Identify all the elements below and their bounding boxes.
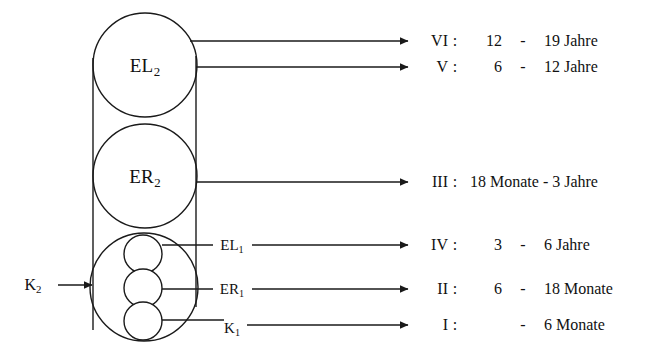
stage-age-to: 3 Jahre [552,173,598,191]
stage-roman: VI [418,32,448,50]
stage-colon: : [448,58,462,76]
stage-colon: : [448,280,462,298]
inline-label-el1: EL1 [220,237,243,254]
stage-dash: - [539,173,552,191]
stage-colon: : [448,173,462,191]
stage-age-to: 19 Jahre [544,32,598,50]
circle-el1 [124,235,162,273]
stage-roman: V [418,58,448,76]
input-label-k2: K2 [25,276,42,294]
stage-age-from: 18 Monate [462,173,539,191]
circle-label-el2: EL2 [130,55,161,77]
circle-k1 [124,302,162,340]
stage-colon: : [448,316,462,334]
stage-colon: : [448,32,462,50]
circle-label-er2: ER2 [129,166,161,188]
inline-label-k1: K1 [224,320,240,337]
stage-age-to: 6 Monate [544,316,605,334]
stage-age-to: 12 Jahre [544,58,598,76]
stage-age-from: 12 [462,32,502,50]
stage-roman: IV [418,236,448,254]
diagram-canvas: EL2 ER2 K2 EL1 ER1 K1 VI : 12 - 19 Jahre… [0,0,659,364]
stage-dash: - [502,236,544,254]
stage-row: III : 18 Monate - 3 Jahre [418,170,598,194]
stage-roman: II [418,280,448,298]
stage-row: VI : 12 - 19 Jahre [418,29,598,53]
stage-age-to: 18 Monate [544,280,613,298]
stage-age-from: 6 [462,280,502,298]
stage-colon: : [448,236,462,254]
stage-dash: - [502,58,544,76]
stage-dash: - [502,32,544,50]
stage-dash: - [502,280,544,298]
circle-er1 [124,269,162,307]
stage-row: V : 6 - 12 Jahre [418,55,598,79]
stage-age-from: 3 [462,236,502,254]
stage-roman: III [418,173,448,191]
stage-row: IV : 3 - 6 Jahre [418,233,590,257]
stage-dash: - [502,316,544,334]
stage-age-from: 6 [462,58,502,76]
stage-row: II : 6 - 18 Monate [418,277,613,301]
inline-label-er1: ER1 [220,281,244,298]
stage-roman: I [418,316,448,334]
inner-circle-group [124,235,162,340]
stage-age-to: 6 Jahre [544,236,590,254]
connector-lines [162,41,408,325]
stage-row: I : - 6 Monate [418,313,605,337]
